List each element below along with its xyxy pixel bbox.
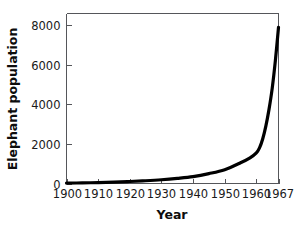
x-axis-title: Year bbox=[156, 207, 189, 222]
x-tick-label: 1920 bbox=[116, 187, 145, 201]
y-tick-label: 6000 bbox=[31, 59, 60, 73]
y-tick-label: 2000 bbox=[31, 138, 60, 152]
x-tick-label: 1910 bbox=[84, 187, 113, 201]
x-tick-label: 1900 bbox=[53, 187, 82, 201]
x-tick-label: 1950 bbox=[211, 187, 240, 201]
x-axis-tick-labels: 19001910192019301940195019601967 bbox=[53, 187, 294, 201]
chart-figure: 02000400060008000 1900191019201930194019… bbox=[0, 0, 300, 228]
y-axis-title: Elephant population bbox=[5, 28, 20, 171]
x-tick-label: 1967 bbox=[265, 187, 294, 201]
y-tick-label: 8000 bbox=[31, 19, 60, 33]
x-tick-label: 1940 bbox=[179, 187, 208, 201]
elephant-population-line-chart: 02000400060008000 1900191019201930194019… bbox=[0, 0, 300, 228]
x-tick-label: 1930 bbox=[147, 187, 176, 201]
y-tick-label: 4000 bbox=[31, 98, 60, 112]
